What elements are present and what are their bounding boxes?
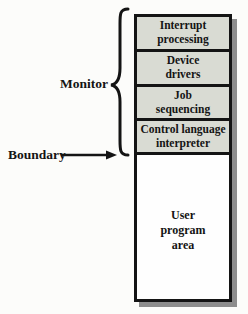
user-area-label-line: program [160, 223, 205, 238]
row-label-line: sequencing [156, 103, 210, 117]
user-program-area: User program area [137, 155, 229, 299]
monitor-row-device-drivers: Device drivers [137, 52, 229, 87]
row-label-line: Control language [140, 123, 225, 137]
memory-map-box: Interrupt processing Device drivers Job … [134, 14, 232, 302]
monitor-label: Monitor [34, 76, 108, 92]
row-label-line: Interrupt [160, 19, 207, 33]
user-area-label-line: area [172, 238, 194, 253]
user-area-label-line: User [171, 208, 195, 223]
row-label-line: Job [174, 89, 192, 103]
boundary-arrow-icon [60, 148, 118, 162]
monitor-row-job-sequencing: Job sequencing [137, 87, 229, 121]
monitor-row-control-language-interpreter: Control language interpreter [137, 121, 229, 155]
monitor-brace-icon [104, 6, 136, 158]
row-label-line: Device [167, 54, 200, 68]
memory-layout-figure: Monitor Boundary Interrupt processing De… [0, 0, 248, 314]
row-label-line: drivers [165, 68, 200, 82]
boundary-label: Boundary [8, 147, 66, 163]
row-label-line: processing [157, 33, 209, 47]
monitor-row-interrupt-processing: Interrupt processing [137, 17, 229, 52]
row-label-line: interpreter [156, 137, 210, 151]
